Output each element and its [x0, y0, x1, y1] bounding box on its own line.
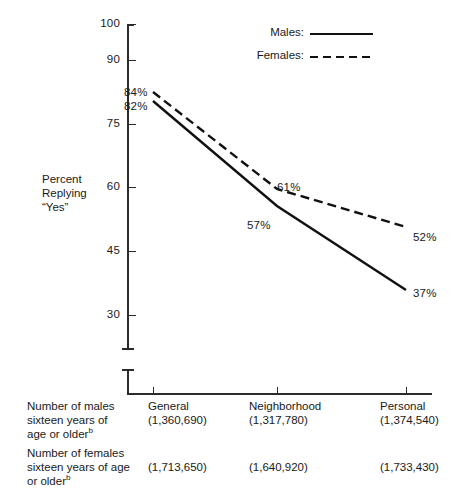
footnote-marker-b-males: b	[88, 426, 92, 435]
table-row-label-females-line-3-text: or older	[27, 475, 66, 487]
table-column-header-personal: Personal	[380, 399, 425, 413]
table-row-label-males-line-3-text: age or older	[27, 428, 88, 440]
data-label-females-neighborhood: 61%	[277, 181, 301, 193]
data-label-males-general: 82%	[124, 100, 148, 112]
table-cell-females-neighborhood: (1,640,920)	[249, 460, 308, 474]
series-line-males	[153, 101, 406, 290]
data-label-males-neighborhood: 57%	[247, 219, 271, 231]
table-row-label-males-line-1: Number of males	[27, 399, 145, 413]
table-row-label-males-line-2: sixteen years of	[27, 413, 145, 427]
table-row-label-males: Number of males sixteen years of age or …	[27, 399, 145, 441]
table-cell-females-general: (1,713,650)	[148, 460, 207, 474]
table-column-header-neighborhood: Neighborhood	[249, 399, 321, 413]
table-column-header-general: General	[148, 399, 189, 413]
table-row-label-females-line-2: sixteen years of age	[27, 460, 145, 474]
table-row-label-females-line-3: or olderb	[27, 474, 145, 488]
data-label-males-personal: 37%	[413, 287, 437, 299]
table-row-label-females: Number of females sixteen years of age o…	[27, 446, 145, 488]
table-row-label-females-line-1: Number of females	[27, 446, 145, 460]
chart-figure: 100 90 75 60 45 30 Percent Replying “Yes…	[0, 0, 467, 497]
footnote-marker-b-females: b	[66, 473, 70, 482]
table-cell-females-personal: (1,733,430)	[380, 460, 439, 474]
table-cell-males-neighborhood: (1,317,780)	[249, 413, 308, 427]
table-cell-males-personal: (1,374,540)	[380, 413, 439, 427]
data-label-females-general: 84%	[124, 86, 148, 98]
table-cell-males-general: (1,360,690)	[148, 413, 207, 427]
table-row-label-males-line-3: age or olderb	[27, 427, 145, 441]
data-label-females-personal: 52%	[413, 231, 437, 243]
